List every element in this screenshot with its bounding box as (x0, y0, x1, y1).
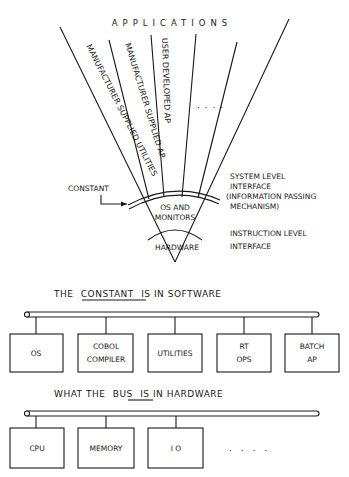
software-bus-section: THE CONSTANT IS IN SOFTWARE OS COBOL COM… (10, 289, 339, 372)
software-heading-key: CONSTANT (81, 289, 134, 299)
svg-text:RT: RT (239, 342, 249, 351)
software-box-os: OS (10, 334, 63, 372)
system-interface-line3: (INFORMATION PASSING (226, 192, 316, 201)
hardware-bus-section: WHAT THE BUS IS IN HARDWARE CPU MEMORY I… (10, 389, 319, 468)
svg-text:UTILITIES: UTILITIES (158, 349, 193, 358)
system-interface-line1: SYSTEM LEVEL (230, 172, 286, 181)
system-interface-line2: INTERFACE (230, 182, 271, 191)
hardware-box-cpu: CPU (10, 428, 64, 468)
constant-label: CONSTANT (68, 184, 109, 193)
software-heading-post: IS IN SOFTWARE (141, 289, 221, 299)
svg-text:AP: AP (307, 355, 317, 364)
software-heading-pre: THE (53, 289, 73, 299)
software-box-rt-ops: RT OPS (217, 334, 271, 372)
wedge-ellipsis: . . . . (197, 100, 224, 110)
fan-ray-4 (182, 34, 196, 197)
svg-text:OPS: OPS (236, 355, 251, 364)
hardware-heading-post: IS IN HARDWARE (140, 389, 223, 399)
svg-text:THE CONSTANT IS IN: THE CONSTANT IS IN SOFTWARE (53, 289, 222, 299)
applications-title: APPLICATIONS (112, 18, 233, 28)
software-box-cobol-compiler: COBOL COMPILER (78, 334, 133, 372)
hardware-heading-key: BUS (113, 389, 133, 399)
svg-text:WHAT THE BUS IS IN: WHAT THE BUS IS IN HARDWARE (54, 389, 223, 399)
hardware-bus-bar (25, 411, 319, 416)
svg-text:COMPILER: COMPILER (87, 355, 125, 364)
system-interface-line4: MECHANISM) (230, 202, 279, 211)
software-bus-bar (25, 312, 319, 317)
hardware-label: HARDWARE (155, 243, 199, 252)
constant-arrowhead-icon (121, 202, 127, 207)
hardware-bus-end (25, 411, 30, 416)
instruction-interface-line2: INTERFACE (230, 242, 271, 251)
svg-text:BATCH: BATCH (300, 342, 325, 351)
hardware-box-memory: MEMORY (78, 428, 134, 468)
svg-text:I O: I O (171, 444, 182, 453)
instruction-interface-arc (148, 230, 202, 240)
applications-fan: APPLICATIONS MANUFACTURER SUPPLIED UTILI… (60, 18, 316, 262)
svg-text:MEMORY: MEMORY (90, 444, 123, 453)
hardware-heading-pre: WHAT THE (54, 389, 105, 399)
svg-text:OS: OS (31, 349, 42, 358)
wedge-label-mfr-ap: MANUFACTURER SUPPLIED AP (123, 42, 167, 159)
fan-ray-6 (175, 19, 289, 262)
os-label-line2: MONITORS (155, 213, 196, 222)
hardware-ellipsis: . . . . (229, 443, 270, 453)
hardware-box-io: I O (148, 428, 203, 468)
svg-text:CPU: CPU (29, 444, 44, 453)
wedge-label-user-ap: USER DEVELOPED AP (160, 38, 172, 124)
os-label-line1: OS AND (160, 203, 190, 212)
instruction-interface-line1: INSTRUCTION LEVEL (230, 229, 308, 238)
software-bus-end (25, 312, 30, 317)
svg-text:COBOL: COBOL (93, 342, 120, 351)
layered-architecture-diagram: APPLICATIONS MANUFACTURER SUPPLIED UTILI… (0, 0, 349, 477)
software-box-utilities: UTILITIES (148, 334, 202, 372)
software-box-batch-ap: BATCH AP (285, 334, 339, 372)
